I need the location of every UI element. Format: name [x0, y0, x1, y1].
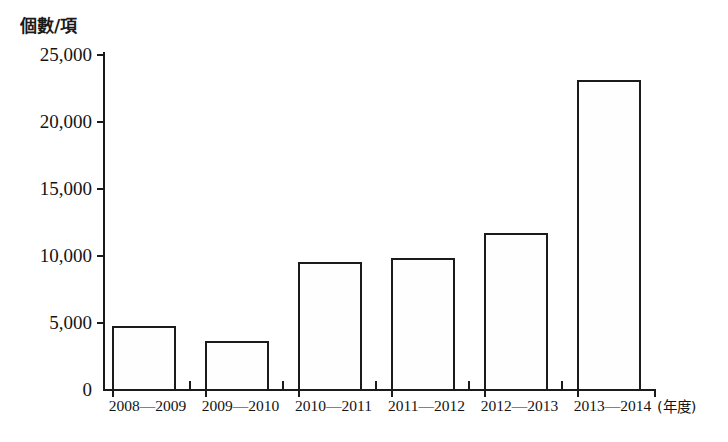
y-tick-10000: [97, 255, 104, 257]
x-tick-major-1: [205, 389, 207, 397]
bar-2013-2014: [577, 80, 641, 391]
y-axis-title: 個數/項: [20, 16, 77, 36]
bar-chart: 個數/項 25,000 20,000 15,000 10,000 5,000 0: [0, 0, 728, 442]
y-axis-line: [103, 52, 105, 391]
x-tick-major-3: [391, 389, 393, 397]
y-tick-25000: [97, 54, 104, 56]
y-label-wrap-0: 0: [0, 380, 92, 399]
bar-2012-2013: [484, 233, 548, 391]
x-axis-label-2009-2010: 2009—2010: [194, 397, 287, 415]
y-tick-15000: [97, 188, 104, 190]
y-axis-label-25000: 25,000: [6, 45, 92, 64]
y-label-wrap-5000: 5,000: [0, 313, 92, 332]
x-axis-label-2013-2014: 2013—2014: [566, 397, 659, 415]
x-axis-label-2011-2012: 2011—2012: [380, 397, 473, 415]
x-axis-line: [103, 389, 656, 391]
bar-2008-2009: [112, 326, 176, 391]
x-axis-label-2012-2013: 2012—2013: [473, 397, 566, 415]
y-axis-label-10000: 10,000: [6, 246, 92, 265]
x-tick-minor-3: [468, 381, 470, 390]
y-label-wrap-25000: 25,000: [0, 45, 92, 64]
bar-2009-2010: [205, 341, 269, 391]
x-tick-major-4: [484, 389, 486, 397]
x-axis-label-2010-2011: 2010—2011: [287, 397, 380, 415]
x-tick-minor-4: [561, 381, 563, 390]
y-label-wrap-10000: 10,000: [0, 246, 92, 265]
y-axis-label-5000: 5,000: [6, 313, 92, 332]
y-tick-20000: [97, 121, 104, 123]
y-axis-label-15000: 15,000: [6, 179, 92, 198]
y-label-wrap-15000: 15,000: [0, 179, 92, 198]
x-tick-minor-1: [282, 381, 284, 390]
x-axis-label-2008-2009: 2008—2009: [101, 397, 194, 415]
x-tick-major-end: [654, 389, 656, 397]
x-tick-major-5: [577, 389, 579, 397]
x-tick-major-2: [298, 389, 300, 397]
y-axis-label-20000: 20,000: [6, 112, 92, 131]
x-tick-minor-2: [375, 381, 377, 390]
bar-2010-2011: [298, 262, 362, 391]
x-tick-major-0: [112, 389, 114, 397]
x-axis-unit-label: (年度): [657, 398, 696, 416]
y-tick-5000: [97, 322, 104, 324]
bar-2011-2012: [391, 258, 455, 391]
y-label-wrap-20000: 20,000: [0, 112, 92, 131]
y-axis-label-0: 0: [6, 380, 92, 399]
x-tick-minor-0: [189, 381, 191, 390]
